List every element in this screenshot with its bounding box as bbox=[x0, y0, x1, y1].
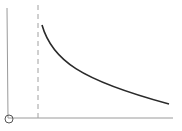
y-axis bbox=[7, 8, 8, 118]
diagram-canvas bbox=[0, 0, 182, 131]
decreasing-curve bbox=[42, 25, 169, 104]
origin-marker-icon bbox=[5, 115, 13, 123]
